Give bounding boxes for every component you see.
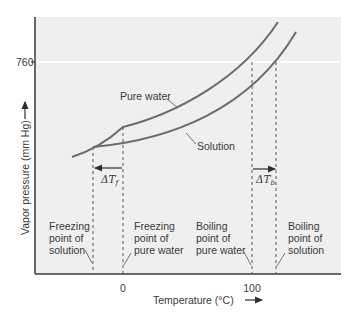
svg-text:Freezing: Freezing xyxy=(134,220,175,232)
x-tick-label-0: 0 xyxy=(120,282,126,294)
vapor-pressure-chart: 760 0 100 Temperature (°C) Vapor pressur… xyxy=(0,0,362,319)
svg-text:solution: solution xyxy=(288,244,324,256)
svg-text:Freezing: Freezing xyxy=(49,220,90,232)
pure-water-label: Pure water xyxy=(120,90,171,102)
svg-text:point of: point of xyxy=(196,232,231,244)
y-axis-label: Vapor pressure (mm Hg) xyxy=(19,120,31,235)
x-tick-label-100: 100 xyxy=(243,282,261,294)
svg-text:solution: solution xyxy=(49,244,85,256)
x-axis-label: Temperature (°C) xyxy=(153,294,234,306)
x-axis-title: Temperature (°C) xyxy=(153,294,262,306)
annotation-boiling-solution: Boiling point of solution xyxy=(288,220,324,256)
solution-label: Solution xyxy=(197,140,235,152)
svg-text:Boiling: Boiling xyxy=(196,220,228,232)
svg-text:Boiling: Boiling xyxy=(288,220,320,232)
y-axis-title: Vapor pressure (mm Hg) xyxy=(19,102,31,235)
svg-text:point of: point of xyxy=(288,232,323,244)
svg-text:point of: point of xyxy=(49,232,84,244)
svg-text:pure water: pure water xyxy=(196,244,246,256)
y-tick-label-760: 760 xyxy=(16,56,34,68)
svg-text:point of: point of xyxy=(134,232,169,244)
svg-text:pure water: pure water xyxy=(134,244,184,256)
